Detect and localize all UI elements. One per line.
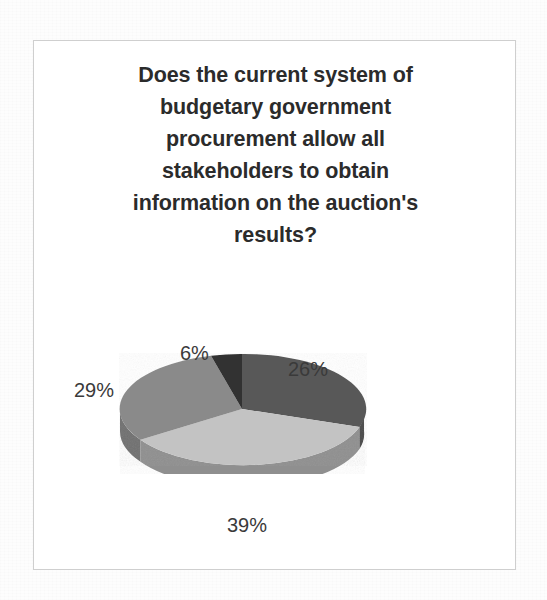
pie-label-29: 29%	[74, 379, 114, 402]
pie-chart-area: 6% 26% 29% 39%	[34, 296, 517, 566]
chart-title-line-1: Does the current system of	[74, 59, 477, 91]
chart-frame: Does the current system of budgetary gov…	[33, 40, 516, 570]
chart-title: Does the current system of budgetary gov…	[74, 59, 477, 251]
chart-title-line-4: stakeholders to obtain	[74, 155, 477, 187]
pie-label-39: 39%	[227, 514, 267, 537]
chart-title-line-5: information on the auction's	[74, 187, 477, 219]
chart-title-line-3: procurement allow all	[74, 123, 477, 155]
pie-label-26: 26%	[288, 358, 328, 381]
chart-title-line-2: budgetary government	[74, 91, 477, 123]
chart-title-line-6: results?	[74, 219, 477, 251]
pie-label-6: 6%	[180, 342, 209, 365]
pie-chart-3d	[112, 344, 372, 474]
